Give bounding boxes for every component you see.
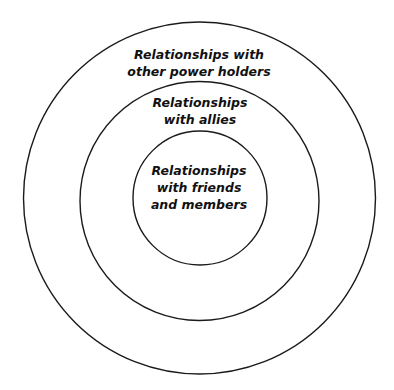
inner-label-line-2: with friends: [151, 179, 247, 196]
inner-label-line-3: and members: [151, 196, 247, 213]
outer-label-line-1: Relationships with: [127, 46, 270, 63]
outer-circle-label: Relationships with other power holders: [127, 46, 270, 80]
middle-circle-label: Relationships with allies: [153, 94, 248, 128]
middle-label-line-2: with allies: [153, 111, 248, 128]
outer-label-line-2: other power holders: [127, 63, 270, 80]
inner-label-line-1: Relationships: [151, 162, 247, 179]
middle-label-line-1: Relationships: [153, 94, 248, 111]
inner-circle-label: Relationships with friends and members: [151, 162, 247, 213]
